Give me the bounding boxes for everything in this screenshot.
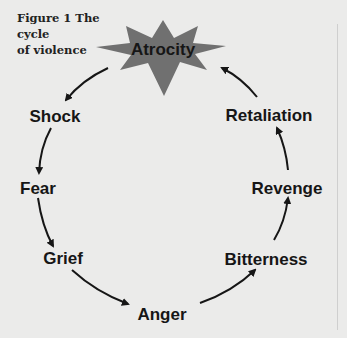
- arrow-shock-to-fear: [39, 128, 51, 173]
- node-grief: Grief: [43, 249, 83, 268]
- arrow-atrocity-to-shock: [66, 68, 108, 100]
- node-atrocity: Atrocity: [131, 40, 196, 59]
- node-bitterness: Bitterness: [224, 250, 307, 269]
- arrow-anger-to-bitterness: [200, 270, 255, 303]
- figure-page: Figure 1 The cycle of violence Atrocity …: [0, 0, 347, 338]
- arrow-revenge-to-retaliation: [277, 128, 288, 170]
- node-fear: Fear: [20, 179, 56, 198]
- node-revenge: Revenge: [252, 179, 323, 198]
- arrow-retaliation-to-atrocity: [222, 68, 257, 97]
- node-retaliation: Retaliation: [226, 106, 313, 125]
- node-shock: Shock: [29, 107, 81, 126]
- arrow-fear-to-grief: [38, 198, 53, 246]
- cycle-diagram: Atrocity Shock Fear Grief Anger Bitterne…: [0, 0, 347, 338]
- arrow-bitterness-to-revenge: [274, 198, 288, 240]
- arrow-grief-to-anger: [72, 270, 128, 304]
- node-anger: Anger: [137, 305, 187, 324]
